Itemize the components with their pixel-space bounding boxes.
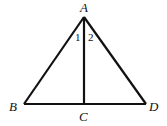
triangle-diagram: A B C D 1 2 — [0, 0, 167, 126]
angle-label-2: 2 — [88, 31, 94, 43]
label-d: D — [148, 99, 159, 114]
angle-label-1: 1 — [75, 31, 81, 43]
label-c: C — [79, 109, 88, 124]
label-a: A — [79, 0, 88, 15]
label-b: B — [9, 99, 17, 114]
